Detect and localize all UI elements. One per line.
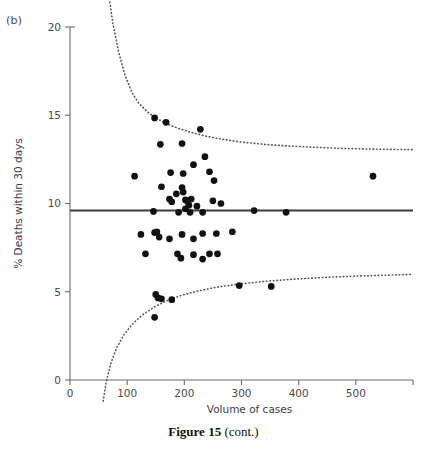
scatter-point: [236, 282, 243, 289]
y-tick-label: 15: [48, 109, 61, 121]
x-tick-label: 400: [289, 387, 309, 399]
scatter-point: [158, 183, 165, 190]
scatter-point: [370, 173, 377, 180]
scatter-point: [251, 207, 258, 214]
scatter-point: [178, 255, 185, 262]
y-tick-label: 5: [54, 286, 61, 298]
scatter-point: [211, 177, 218, 184]
scatter-point: [151, 115, 158, 122]
scatter-point: [268, 283, 275, 290]
scatter-point: [157, 141, 164, 148]
y-axis: 05101520 % Deaths within 30 days: [12, 21, 75, 386]
x-tick-label: 0: [67, 387, 74, 399]
scatter-point: [210, 197, 217, 204]
scatter-points-group: [131, 115, 376, 321]
x-axis: 0100200300400500 Volume of cases: [67, 380, 413, 415]
upper-control-limit: [109, 0, 413, 150]
scatter-point: [187, 209, 194, 216]
funnel-plot-svg: 05101520 % Deaths within 30 days 0100200…: [0, 0, 427, 454]
figure-caption-suffix: (cont.): [221, 424, 259, 439]
scatter-point: [180, 189, 187, 196]
scatter-point: [158, 295, 165, 302]
scatter-point: [218, 200, 225, 207]
x-tick-label: 300: [231, 387, 251, 399]
scatter-point: [194, 203, 201, 210]
figure-caption: Figure 15 (cont.): [0, 424, 427, 440]
scatter-point: [229, 228, 236, 235]
scatter-point: [283, 209, 290, 216]
lower-control-limit: [103, 274, 413, 401]
scatter-point: [168, 198, 175, 205]
scatter-point: [199, 256, 206, 263]
y-tick-label: 0: [54, 374, 61, 386]
x-axis-ticks: 0100200300400500: [67, 380, 413, 399]
scatter-point: [214, 250, 221, 257]
scatter-point: [179, 231, 186, 238]
scatter-point: [190, 161, 197, 168]
scatter-point: [173, 190, 180, 197]
y-tick-label: 10: [48, 197, 61, 209]
scatter-point: [179, 140, 186, 147]
scatter-point: [138, 231, 145, 238]
scatter-point: [166, 235, 173, 242]
y-axis-title: % Deaths within 30 days: [12, 138, 24, 269]
scatter-point: [199, 230, 206, 237]
x-tick-label: 100: [117, 387, 137, 399]
scatter-point: [151, 314, 158, 321]
control-limit-curves: [103, 0, 413, 401]
scatter-point: [150, 208, 157, 215]
scatter-point: [163, 119, 170, 126]
scatter-point: [213, 230, 220, 237]
scatter-point: [190, 235, 197, 242]
figure-container: (b) 05101520 % Deaths within 30 days 010…: [0, 0, 427, 454]
scatter-point: [197, 126, 204, 133]
scatter-point: [175, 209, 182, 216]
scatter-point: [188, 196, 195, 203]
scatter-point: [168, 296, 175, 303]
scatter-point: [202, 153, 209, 160]
scatter-point: [190, 251, 197, 258]
y-axis-ticks: 05101520: [48, 21, 75, 386]
scatter-point: [199, 209, 206, 216]
scatter-point: [206, 250, 213, 257]
x-tick-label: 500: [346, 387, 366, 399]
y-tick-label: 20: [48, 21, 61, 33]
scatter-point: [167, 169, 174, 176]
scatter-point: [180, 170, 187, 177]
scatter-point: [142, 250, 149, 257]
x-tick-label: 200: [174, 387, 194, 399]
x-axis-title: Volume of cases: [207, 403, 292, 415]
scatter-point: [131, 173, 138, 180]
scatter-point: [206, 168, 213, 175]
figure-caption-number: Figure 15: [168, 424, 221, 439]
scatter-point: [154, 228, 161, 235]
